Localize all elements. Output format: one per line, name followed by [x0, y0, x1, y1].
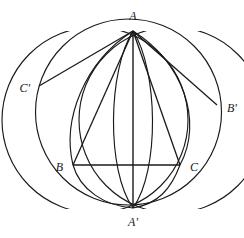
vertex-label-A-prime: A'	[128, 216, 138, 228]
geometry-figure: A B C A' B' C'	[0, 0, 244, 238]
inner-lens-left-arc	[113, 31, 133, 208]
vertex-label-C: C	[190, 161, 198, 173]
vertex-label-B-prime: B'	[227, 102, 237, 114]
vertex-label-A: A	[129, 10, 136, 22]
geometry-canvas	[0, 0, 244, 238]
vertex-label-B: B	[56, 161, 63, 173]
outer-arc-through-C	[133, 31, 190, 208]
vertex-label-C-prime: C'	[19, 82, 30, 94]
circumcircle	[36, 19, 222, 205]
